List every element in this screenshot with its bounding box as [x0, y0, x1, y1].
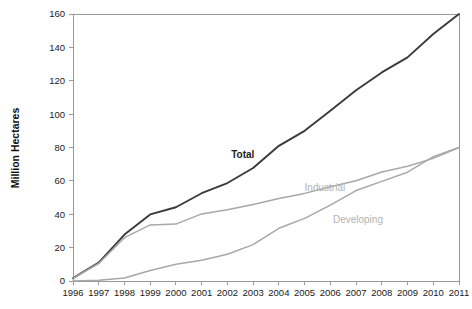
series-labels: TotalIndustrialDeveloping [231, 149, 383, 225]
y-axis-ticks: 020406080100120140160 [49, 8, 73, 286]
y-tick-label: 80 [54, 142, 65, 153]
series-label-total: Total [231, 149, 254, 160]
x-tick-label: 2007 [345, 287, 366, 298]
plot-border [73, 14, 459, 281]
series-line-industrial [73, 148, 459, 279]
x-tick-label: 2010 [423, 287, 444, 298]
y-tick-label: 20 [54, 242, 65, 253]
x-tick-label: 2008 [371, 287, 392, 298]
series-label-developing: Developing [333, 214, 383, 225]
series-lines [73, 14, 459, 281]
series-line-total [73, 14, 459, 278]
y-axis-title-group: Million Hectares [9, 108, 21, 189]
plot-frame [73, 14, 459, 281]
x-tick-label: 1998 [114, 287, 135, 298]
line-chart: 020406080100120140160 199619971998199920… [0, 0, 472, 309]
x-tick-label: 2011 [449, 287, 469, 298]
x-tick-label: 2001 [191, 287, 212, 298]
series-label-industrial: Industrial [305, 182, 346, 193]
x-tick-label: 2000 [165, 287, 186, 298]
x-tick-label: 1999 [140, 287, 161, 298]
y-tick-label: 100 [49, 109, 65, 120]
x-tick-label: 2004 [268, 287, 289, 298]
chart-canvas: 020406080100120140160 199619971998199920… [0, 0, 472, 309]
x-tick-label: 2002 [217, 287, 238, 298]
y-tick-label: 120 [49, 75, 65, 86]
y-tick-label: 0 [60, 275, 65, 286]
x-tick-label: 1997 [88, 287, 109, 298]
y-tick-label: 160 [49, 8, 65, 19]
y-tick-label: 60 [54, 175, 65, 186]
x-tick-label: 2006 [320, 287, 341, 298]
y-tick-label: 40 [54, 209, 65, 220]
x-tick-label: 2009 [397, 287, 418, 298]
x-tick-label: 1996 [62, 287, 83, 298]
y-axis-title: Million Hectares [9, 108, 21, 189]
x-tick-label: 2003 [243, 287, 264, 298]
x-tick-label: 2005 [294, 287, 315, 298]
y-tick-label: 140 [49, 42, 65, 53]
x-axis-ticks: 1996199719981999200020012002200320042005… [62, 281, 469, 298]
